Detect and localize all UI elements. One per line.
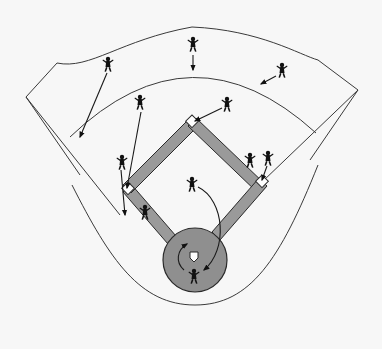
2b-arrow [195,108,222,121]
center-fielder-icon [188,37,199,52]
left-foul-line-inner [26,97,80,175]
rf-arrow [261,76,276,84]
left-fielder-icon [103,57,114,72]
left-foul-line-outer [26,97,120,215]
baseball-field-diagram [0,0,382,349]
first-base-runner-icon [263,151,274,166]
right-fielder-icon [277,63,288,78]
right-foul-line-outer [262,90,358,182]
basepath-third-to-second [123,119,197,193]
third-base-coach-runner-icon [117,155,128,170]
right-foul-line-inner [310,90,358,160]
lf-arrow [80,73,107,137]
shortstop-icon [135,95,146,110]
pitcher-icon [187,177,198,192]
second-baseman-icon [222,97,233,112]
